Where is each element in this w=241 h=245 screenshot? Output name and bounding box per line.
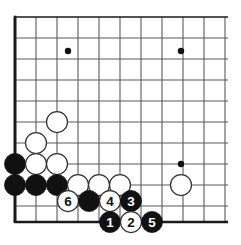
go-board-canvas: 643125	[0, 0, 241, 245]
white-stone-c[interactable]	[26, 154, 47, 175]
black-stone-icon	[5, 175, 26, 196]
go-board-diagram: 643125	[0, 0, 241, 245]
stones-layer: 643125	[5, 112, 192, 233]
move-5-black[interactable]: 5	[142, 212, 163, 233]
move-number-label: 5	[148, 215, 156, 230]
move-number-label: 4	[106, 194, 114, 209]
black-stone-c[interactable]	[26, 175, 47, 196]
white-stone-d[interactable]	[47, 154, 68, 175]
move-number-label: 3	[127, 194, 135, 209]
move-number-label: 2	[127, 215, 135, 230]
white-stone-icon	[26, 154, 47, 175]
move-3-black[interactable]: 3	[121, 191, 142, 212]
white-stone-a[interactable]	[47, 112, 68, 133]
move-number-label: 6	[64, 194, 72, 209]
white-stone-h[interactable]	[171, 175, 192, 196]
white-stone-icon	[47, 154, 68, 175]
black-stone-icon	[5, 154, 26, 175]
star-point-upper-right-icon	[178, 48, 184, 54]
move-4-white[interactable]: 4	[100, 191, 121, 212]
black-stone-icon	[26, 175, 47, 196]
white-stone-icon	[47, 112, 68, 133]
star-point-upper-left-icon	[65, 48, 71, 54]
black-stone-a[interactable]	[5, 154, 26, 175]
move-2-white[interactable]: 2	[121, 212, 142, 233]
white-stone-icon	[171, 175, 192, 196]
white-stone-b[interactable]	[26, 133, 47, 154]
black-stone-e[interactable]	[79, 191, 100, 212]
black-stone-icon	[79, 191, 100, 212]
move-6-white[interactable]: 6	[58, 191, 79, 212]
white-stone-icon	[26, 133, 47, 154]
star-points	[65, 48, 184, 167]
black-stone-b[interactable]	[5, 175, 26, 196]
star-point-lower-right-icon	[178, 161, 184, 167]
move-number-label: 1	[106, 215, 114, 230]
move-1-black[interactable]: 1	[100, 212, 121, 233]
